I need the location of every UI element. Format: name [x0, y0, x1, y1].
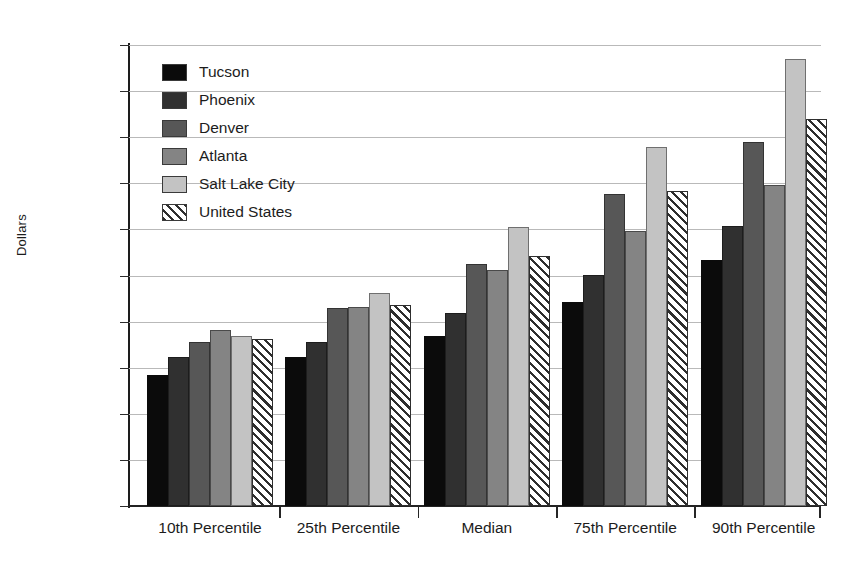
legend-swatch-icon: [162, 92, 187, 109]
legend-swatch-icon: [162, 204, 187, 221]
x-group-label: 90th Percentile: [684, 519, 844, 537]
legend-swatch-icon: [162, 120, 187, 137]
bar[interactable]: [764, 185, 785, 506]
y-axis-title: Dollars: [14, 136, 29, 256]
bar[interactable]: [231, 336, 252, 506]
bar[interactable]: [306, 342, 327, 506]
bar[interactable]: [508, 227, 529, 506]
bar-group: [701, 45, 827, 506]
bar[interactable]: [147, 375, 168, 506]
x-axis-tick: [694, 506, 696, 518]
legend-label: United States: [199, 203, 292, 221]
bar[interactable]: [252, 339, 273, 506]
legend-label: Salt Lake City: [199, 175, 295, 193]
bar[interactable]: [390, 305, 411, 506]
legend-item[interactable]: Tucson: [162, 58, 362, 86]
y-tick-mark: [120, 368, 129, 369]
y-tick-mark: [120, 460, 129, 461]
x-axis-tick: [418, 506, 420, 518]
y-tick-mark: [120, 183, 129, 184]
bar[interactable]: [743, 142, 764, 506]
y-tick-mark: [120, 322, 129, 323]
bar-group: [562, 45, 688, 506]
bar[interactable]: [369, 293, 390, 506]
bar[interactable]: [210, 330, 231, 506]
bar[interactable]: [285, 357, 306, 506]
bar[interactable]: [625, 231, 646, 506]
bar[interactable]: [168, 357, 189, 506]
y-tick-mark: [120, 137, 129, 138]
legend-item[interactable]: Denver: [162, 114, 362, 142]
legend-label: Tucson: [199, 63, 249, 81]
bar[interactable]: [646, 147, 667, 506]
bar[interactable]: [806, 119, 827, 506]
x-axis-tick: [279, 506, 281, 518]
bar[interactable]: [604, 194, 625, 506]
bar[interactable]: [487, 270, 508, 506]
legend-item[interactable]: Atlanta: [162, 142, 362, 170]
y-tick-mark: [120, 506, 129, 507]
legend-label: Atlanta: [199, 147, 247, 165]
y-tick-mark: [120, 45, 129, 46]
bar[interactable]: [466, 264, 487, 506]
legend-swatch-icon: [162, 176, 187, 193]
x-axis-tick: [556, 506, 558, 518]
legend-label: Phoenix: [199, 91, 255, 109]
bar[interactable]: [667, 191, 688, 506]
bar[interactable]: [529, 256, 550, 506]
y-tick-mark: [120, 229, 129, 230]
bar-chart: Dollars 010,00020,00030,00040,00050,0006…: [0, 0, 858, 581]
bar[interactable]: [424, 336, 445, 506]
bar[interactable]: [445, 313, 466, 506]
y-tick-mark: [120, 91, 129, 92]
bar[interactable]: [327, 308, 348, 506]
legend-label: Denver: [199, 119, 249, 137]
x-group-label: 10th Percentile: [130, 519, 290, 537]
bar[interactable]: [348, 307, 369, 506]
bar-group: [424, 45, 550, 506]
x-group-label: 25th Percentile: [268, 519, 428, 537]
x-axis-tick: [819, 506, 821, 518]
legend-swatch-icon: [162, 64, 187, 81]
bar[interactable]: [583, 275, 604, 506]
y-tick-mark: [120, 414, 129, 415]
x-group-label: Median: [407, 519, 567, 537]
bar[interactable]: [722, 226, 743, 506]
y-tick-mark: [120, 276, 129, 277]
x-group-label: 75th Percentile: [545, 519, 705, 537]
legend-item[interactable]: Phoenix: [162, 86, 362, 114]
bar[interactable]: [701, 260, 722, 506]
bar[interactable]: [785, 59, 806, 506]
chart-legend: TucsonPhoenixDenverAtlantaSalt Lake City…: [162, 58, 362, 226]
bar[interactable]: [562, 302, 583, 506]
legend-swatch-icon: [162, 148, 187, 165]
legend-item[interactable]: Salt Lake City: [162, 170, 362, 198]
bar[interactable]: [189, 342, 210, 506]
legend-item[interactable]: United States: [162, 198, 362, 226]
